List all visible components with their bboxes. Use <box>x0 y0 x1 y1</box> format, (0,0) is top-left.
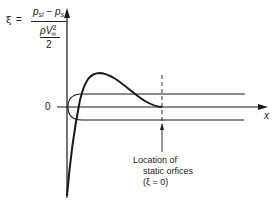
numerator-minus: − <box>44 6 55 17</box>
formula-fraction-bar <box>31 21 67 22</box>
y-zero-label: 0 <box>45 101 51 112</box>
formula-numerator: psi − ps <box>33 7 64 18</box>
formula-denominator: ρV2∞ <box>40 24 56 37</box>
formula-inner-fraction-bar <box>40 37 60 38</box>
numerator-s-subscript: s <box>61 11 65 18</box>
annotation-pointer-arrow-icon <box>160 123 164 130</box>
y-axis-arrow-icon <box>64 8 70 18</box>
formula-equals: = <box>16 15 22 25</box>
annotation-line-2: static orfices <box>143 166 193 177</box>
annotation-line-3: (ξ = 0) <box>143 177 168 188</box>
x-axis-label: x <box>264 110 269 121</box>
formula-denominator-two: 2 <box>46 40 52 50</box>
formula-xi: ξ <box>6 15 12 25</box>
annotation-line-1: Location of <box>133 155 177 166</box>
denominator-infinity-subscript: ∞ <box>51 30 56 37</box>
